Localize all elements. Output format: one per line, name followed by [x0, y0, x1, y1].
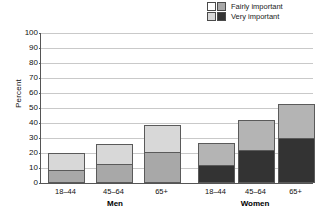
legend-label-fairly-important: Fairly important — [231, 2, 283, 11]
y-tick-label: 80 — [29, 59, 38, 67]
x-tick-label: 18–44 — [47, 187, 84, 196]
y-tick-label: 50 — [29, 104, 38, 112]
bar-women-65 — [278, 104, 315, 184]
y-tick-label: 0 — [34, 179, 38, 187]
y-tick-label: 70 — [29, 74, 38, 82]
y-tick-label: 100 — [25, 29, 38, 37]
gridline — [41, 78, 313, 79]
plot-area: 0102030405060708090100 — [40, 33, 313, 184]
legend-swatch-women-fairly-important — [217, 2, 226, 11]
x-tick-label: 65+ — [143, 187, 180, 196]
bar-men-65 — [144, 125, 181, 184]
bar-women-4564 — [238, 120, 275, 183]
group-label-women: Women — [200, 199, 310, 208]
y-tick-mark — [39, 33, 41, 34]
y-tick-mark — [39, 168, 41, 169]
bar-women-1844 — [198, 143, 235, 184]
y-tick-label: 60 — [29, 89, 38, 97]
x-tick-label: 65+ — [277, 187, 314, 196]
y-tick-label: 90 — [29, 44, 38, 52]
y-tick-mark — [39, 153, 41, 154]
bar-segment-very-important — [48, 170, 85, 184]
bar-segment-fairly-important — [198, 143, 235, 166]
gridline — [41, 93, 313, 94]
bar-segment-fairly-important — [48, 153, 85, 170]
bar-men-1844 — [48, 153, 85, 183]
bar-segment-fairly-important — [278, 104, 315, 139]
x-tick-label: 45–64 — [95, 187, 132, 196]
legend-label-very-important: Very important — [231, 12, 279, 21]
gridline — [41, 108, 313, 109]
y-axis-title: Percent — [14, 79, 23, 108]
y-tick-label: 30 — [29, 134, 38, 142]
y-tick-mark — [39, 93, 41, 94]
y-tick-mark — [39, 63, 41, 64]
bar-segment-very-important — [238, 150, 275, 183]
bar-segment-very-important — [198, 165, 235, 183]
y-tick-label: 10 — [29, 164, 38, 172]
x-tick-label: 18–44 — [197, 187, 234, 196]
legend-item-fairly-important: Fairly important — [207, 2, 319, 11]
x-tick-label: 45–64 — [237, 187, 274, 196]
y-tick-label: 40 — [29, 119, 38, 127]
gridline — [41, 63, 313, 64]
legend-swatch-men-fairly-important — [207, 2, 216, 11]
bar-segment-fairly-important — [96, 144, 133, 164]
bar-segment-very-important — [96, 164, 133, 184]
y-tick-mark — [39, 108, 41, 109]
gridline — [41, 48, 313, 49]
y-tick-mark — [39, 48, 41, 49]
chart-legend: Fairly important Very important — [207, 2, 319, 21]
bar-segment-fairly-important — [238, 120, 275, 150]
bar-men-4564 — [96, 144, 133, 183]
bar-segment-very-important — [278, 138, 315, 183]
y-tick-mark — [39, 123, 41, 124]
bar-chart: Fairly important Very important Percent … — [0, 0, 323, 222]
y-tick-mark — [39, 78, 41, 79]
legend-swatch-women-very-important — [217, 12, 226, 21]
y-tick-mark — [39, 138, 41, 139]
bar-segment-very-important — [144, 152, 181, 184]
legend-swatch-men-very-important — [207, 12, 216, 21]
legend-item-very-important: Very important — [207, 12, 319, 21]
y-tick-label: 20 — [29, 149, 38, 157]
group-label-men: Men — [60, 199, 170, 208]
y-tick-mark — [39, 183, 41, 184]
bar-segment-fairly-important — [144, 125, 181, 152]
gridline — [41, 33, 313, 34]
